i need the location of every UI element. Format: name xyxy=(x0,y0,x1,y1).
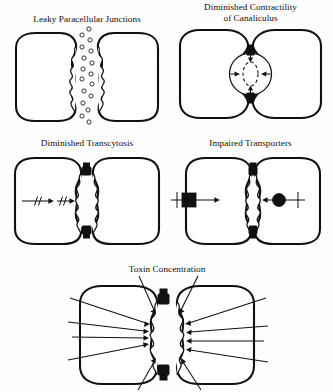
panel-leaky-paracellular-junctions: Leaky Paracellular Junctions xyxy=(2,14,172,126)
panel-toxin-title: Toxin Concentration xyxy=(38,264,296,275)
right-cell-outline xyxy=(177,286,254,384)
leaking-molecules xyxy=(80,27,94,124)
tight-junction-bottom xyxy=(82,226,91,238)
panel-leaky-illustration xyxy=(2,26,172,126)
left-cell-outline xyxy=(80,286,157,384)
transporter-square-symbol xyxy=(182,193,196,207)
cholestasis-mechanisms-figure: Leaky Paracellular Junctions xyxy=(0,0,333,392)
panel-transcytosis-title: Diminished Transcytosis xyxy=(2,138,172,149)
tight-junction-bottom xyxy=(158,365,169,380)
right-cell-outline xyxy=(93,158,159,244)
tight-junction-bottom xyxy=(249,226,257,238)
tight-junction-top xyxy=(158,289,169,304)
panel-contractility-illustration xyxy=(168,24,333,124)
left-cell-outline xyxy=(16,33,76,121)
panel-contractility-title: Diminished Contractility of Canaliculus xyxy=(168,2,333,23)
panel-toxin-illustration xyxy=(38,274,296,392)
panel-transcytosis-illustration xyxy=(2,150,172,250)
panel-diminished-contractility: Diminished Contractility of Canaliculus xyxy=(168,2,333,126)
panel-diminished-transcytosis: Diminished Transcytosis xyxy=(2,138,172,250)
panel-transporters-illustration xyxy=(168,150,333,250)
right-cell-outline xyxy=(98,33,158,121)
panel-transporters-title: Impaired Transporters xyxy=(168,138,333,149)
panel-toxin-concentration: Toxin Concentration xyxy=(38,264,296,392)
panel-impaired-transporters: Impaired Transporters xyxy=(168,138,333,250)
tight-junction-bottom xyxy=(247,93,255,103)
tight-junction-top xyxy=(249,163,257,175)
tight-junction-top xyxy=(247,45,255,55)
transporter-circle-symbol xyxy=(273,194,286,207)
tight-junction-top xyxy=(82,163,91,175)
panel-leaky-title: Leaky Paracellular Junctions xyxy=(2,14,172,25)
